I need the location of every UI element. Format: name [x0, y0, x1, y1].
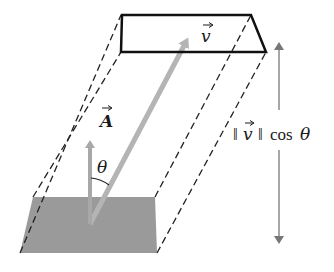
angle-arc	[91, 178, 109, 185]
label-height: ‖ v ‖ cos θ	[233, 121, 310, 145]
label-norm-v: v	[243, 124, 253, 144]
dashed-edge-right-outer	[157, 52, 266, 253]
label-cos: cos	[270, 125, 293, 144]
label-A: A	[98, 111, 113, 131]
label-v: v	[201, 26, 211, 46]
vector-v-arrow	[90, 42, 186, 224]
label-vector-v: v	[201, 23, 213, 47]
flux-diagram: v A θ ‖ v ‖ cos θ	[0, 0, 334, 272]
label-height-theta: θ	[300, 124, 310, 144]
label-norm-open: ‖	[233, 125, 238, 144]
label-theta: θ	[97, 157, 107, 177]
label-norm-close: ‖	[258, 125, 263, 144]
label-vector-A: A	[98, 106, 113, 132]
top-face	[121, 15, 266, 52]
